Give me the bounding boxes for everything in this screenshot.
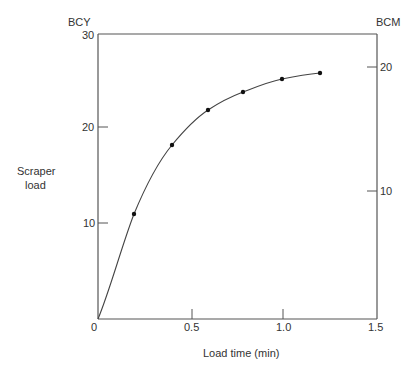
y-axis-title-line2: load — [25, 179, 46, 191]
data-point — [318, 71, 322, 75]
y-right-tick-20: 20 — [380, 61, 392, 73]
x-axis-title: Load time (min) — [203, 347, 279, 359]
y-left-tick-30: 30 — [82, 29, 94, 41]
x-tick-0.5: 0.5 — [184, 321, 199, 333]
data-point — [241, 90, 245, 94]
data-point — [206, 108, 210, 112]
y-left-tick-10: 10 — [83, 217, 95, 229]
right-unit-label: BCM — [376, 16, 400, 28]
y-right-tick-10: 10 — [380, 185, 392, 197]
data-point — [132, 212, 136, 216]
x-tick-1.5: 1.5 — [368, 321, 383, 333]
data-point — [170, 143, 174, 147]
x-tick-0: 0 — [91, 321, 97, 333]
data-point — [280, 77, 284, 81]
y-axis-title-line1: Scraper — [17, 165, 56, 177]
chart-canvas — [0, 0, 411, 374]
y-left-tick-20: 20 — [82, 121, 94, 133]
left-unit-label: BCY — [68, 16, 91, 28]
x-tick-1.0: 1.0 — [276, 321, 291, 333]
